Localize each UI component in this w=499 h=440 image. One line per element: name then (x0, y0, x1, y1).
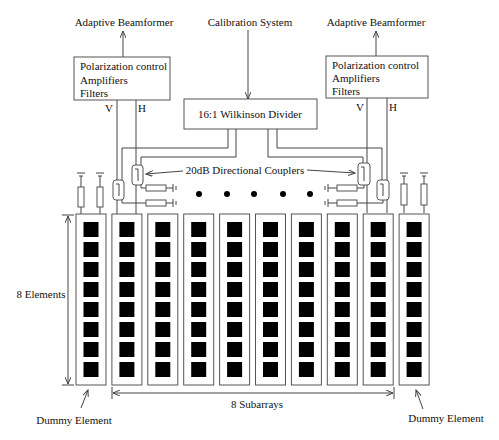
calibration-system-label: Calibration System (208, 16, 293, 28)
dummy-element-right-label: Dummy Element (408, 412, 483, 424)
left-beamformer-label: Adaptive Beamformer (75, 16, 174, 28)
antenna-element (299, 222, 314, 237)
antenna-element (119, 322, 134, 337)
divider-line-right-inner (268, 129, 363, 163)
dummy-left-arrow (81, 390, 88, 408)
antenna-element (371, 362, 386, 377)
subarray-column (112, 214, 142, 385)
left-h-label: H (138, 102, 146, 114)
antenna-element (299, 302, 314, 317)
antenna-element (155, 282, 170, 297)
antenna-element (119, 262, 134, 277)
right-h-label: H (389, 101, 397, 113)
subarray-column (291, 214, 321, 385)
right-box-line-2: Amplifiers (332, 72, 380, 84)
left-box-line-1: Polarization control (80, 60, 167, 72)
antenna-element (335, 322, 350, 337)
antenna-element (191, 242, 206, 257)
antenna-element (155, 302, 170, 317)
couplers-arrow-left (146, 171, 183, 174)
antenna-element (371, 282, 386, 297)
antenna-element (84, 322, 99, 337)
left-upper-term-wire (141, 185, 146, 188)
dummy-column (399, 214, 429, 385)
antenna-element (335, 222, 350, 237)
right-box-line-3: Filters (332, 85, 360, 97)
divider-label: 16:1 Wilkinson Divider (198, 108, 302, 120)
left-box-line-2: Amplifiers (80, 74, 128, 86)
antenna-element (119, 282, 134, 297)
antenna-element (191, 282, 206, 297)
right-upper-termination-resistor (337, 185, 357, 191)
antenna-element (191, 222, 206, 237)
antenna-element (407, 362, 422, 377)
antenna-element (119, 222, 134, 237)
antenna-element (227, 342, 242, 357)
antenna-element (407, 342, 422, 357)
antenna-element (263, 302, 278, 317)
antenna-element (371, 242, 386, 257)
left-dummy-terminations (77, 173, 104, 215)
antenna-element (371, 262, 386, 277)
antenna-element (263, 362, 278, 377)
dummy-element-left-label: Dummy Element (36, 414, 111, 426)
antenna-element (407, 282, 422, 297)
antenna-element (191, 322, 206, 337)
dummy-right-arrow (416, 390, 423, 409)
left-lower-term-wire (122, 200, 146, 203)
antenna-element (227, 242, 242, 257)
subarray-column (256, 214, 286, 385)
couplers-arrow-right (307, 170, 355, 173)
antenna-element (371, 222, 386, 237)
right-v-label: V (356, 101, 364, 113)
antenna-element (227, 222, 242, 237)
antenna-element (371, 302, 386, 317)
antenna-element (335, 342, 350, 357)
antenna-element (335, 242, 350, 257)
antenna-element (155, 362, 170, 377)
antenna-element (84, 342, 99, 357)
wilkinson-divider-box: 16:1 Wilkinson Divider (184, 99, 317, 129)
subarray-column (184, 214, 214, 385)
subarray-column (327, 214, 357, 385)
antenna-element (155, 322, 170, 337)
antenna-element (119, 342, 134, 357)
antenna-element (263, 342, 278, 357)
subarray-column (148, 214, 178, 385)
antenna-element (407, 302, 422, 317)
antenna-element (191, 262, 206, 277)
antenna-array (76, 214, 429, 385)
antenna-element (299, 262, 314, 277)
right-lower-term-wire (357, 200, 383, 203)
antenna-element (227, 282, 242, 297)
antenna-element (263, 322, 278, 337)
antenna-element (371, 322, 386, 337)
antenna-element (299, 362, 314, 377)
diagram-canvas: Adaptive Beamformer Calibration System A… (0, 0, 499, 440)
antenna-element (84, 282, 99, 297)
antenna-element (191, 342, 206, 357)
antenna-element (299, 282, 314, 297)
subarray-column (363, 214, 393, 385)
ellipsis-dots (196, 191, 313, 197)
antenna-element (84, 362, 99, 377)
antenna-element (84, 242, 99, 257)
antenna-element (299, 242, 314, 257)
antenna-element (84, 262, 99, 277)
left-box-line-3: Filters (80, 87, 108, 99)
antenna-element (155, 222, 170, 237)
antenna-element (155, 262, 170, 277)
left-lower-termination-resistor (146, 200, 166, 206)
left-v-label: V (105, 102, 113, 114)
antenna-element (119, 242, 134, 257)
antenna-element (263, 242, 278, 257)
divider-line-left-inner (141, 129, 236, 165)
antenna-element (299, 322, 314, 337)
antenna-element (407, 222, 422, 237)
antenna-element (335, 282, 350, 297)
right-box-line-1: Polarization control (332, 59, 419, 71)
antenna-element (119, 362, 134, 377)
antenna-element (335, 262, 350, 277)
antenna-element (263, 262, 278, 277)
antenna-element (227, 322, 242, 337)
